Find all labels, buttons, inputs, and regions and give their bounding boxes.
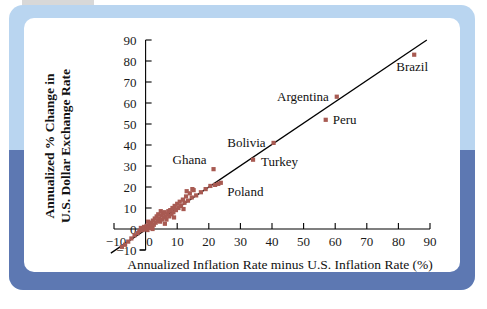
x-tick-label: 40: [266, 234, 279, 249]
data-point-labeled: [335, 95, 339, 99]
x-axis-title: Annualized Inflation Rate minus U.S. Inf…: [127, 257, 433, 272]
data-point-labeled: [216, 182, 220, 186]
data-point: [186, 199, 190, 203]
y-tick-label: 90: [124, 33, 137, 48]
data-point: [190, 187, 194, 191]
figure-root: −100102030405060708090−10010203040506070…: [0, 0, 487, 309]
x-tick-label: 10: [171, 234, 184, 249]
data-point: [159, 209, 163, 213]
data-point: [146, 220, 150, 224]
data-point-labeled: [324, 118, 328, 122]
y-tick-label: 30: [124, 159, 137, 174]
point-label-argentina: Argentina: [277, 89, 329, 104]
x-tick-label: 70: [360, 234, 373, 249]
x-tick-label: 0: [146, 234, 153, 249]
data-point: [184, 194, 188, 198]
y-tick-label: 20: [124, 180, 137, 195]
x-tick-label: 30: [234, 234, 247, 249]
data-point: [181, 207, 185, 211]
chart-svg: −100102030405060708090−10010203040506070…: [24, 18, 460, 272]
scatter-plot: −100102030405060708090−10010203040506070…: [24, 18, 460, 272]
data-point: [163, 222, 167, 226]
x-tick-label: 80: [392, 234, 405, 249]
data-point: [120, 245, 124, 249]
data-point: [208, 184, 212, 188]
y-tick-label: 40: [124, 138, 137, 153]
data-point-labeled: [412, 53, 416, 57]
x-tick-label: 20: [202, 234, 215, 249]
point-label-peru: Peru: [333, 112, 357, 127]
y-tick-label: 50: [124, 117, 137, 132]
x-tick-label: 90: [424, 234, 437, 249]
data-point: [199, 190, 203, 194]
data-point-labeled: [211, 167, 215, 171]
x-tick-label: 60: [329, 234, 342, 249]
point-label-bolivia: Bolivia: [227, 135, 266, 150]
point-label-brazil: Brazil: [396, 59, 428, 74]
y-axis-title-line1: Annualized % Change in: [42, 73, 57, 219]
point-label-ghana: Ghana: [173, 152, 207, 167]
point-label-poland: Poland: [227, 184, 264, 199]
data-point: [172, 215, 176, 219]
data-point: [194, 193, 198, 197]
frame-bottom-strip: [9, 290, 475, 295]
data-point-labeled: [271, 141, 275, 145]
y-tick-label: 60: [124, 96, 137, 111]
data-point: [190, 195, 194, 199]
point-label-turkey: Turkey: [261, 154, 299, 169]
y-tick-label: 80: [124, 54, 137, 69]
x-tick-label: 50: [297, 234, 310, 249]
y-tick-label: 70: [124, 75, 137, 90]
data-point-labeled: [251, 158, 255, 162]
y-axis-title-line2: U.S. Dollar Exchange Rate: [58, 69, 73, 223]
y-tick-label: 10: [124, 201, 137, 216]
data-point: [204, 187, 208, 191]
data-point: [150, 227, 154, 231]
data-point: [185, 189, 189, 193]
